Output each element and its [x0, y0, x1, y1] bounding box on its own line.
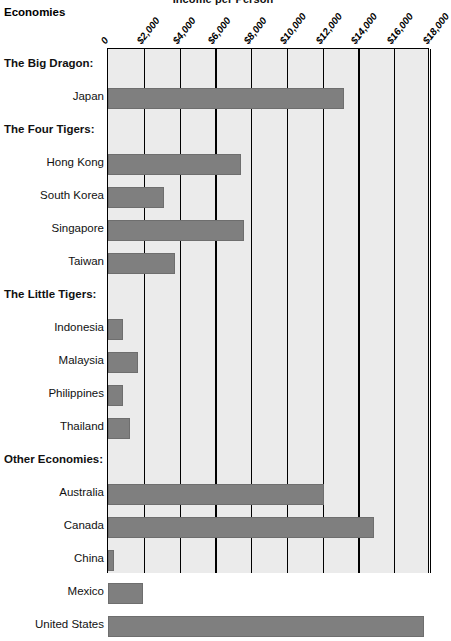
bar-hong-kong[interactable]: [108, 154, 241, 175]
row-label: South Korea: [0, 189, 108, 201]
row-label: Singapore: [0, 222, 108, 234]
row-label: Thailand: [0, 420, 108, 432]
x-axis-tick-5: $10,000: [277, 11, 308, 46]
bar-row: [108, 346, 428, 379]
bar-thailand[interactable]: [108, 418, 130, 439]
x-axis-tick-0: 0: [98, 35, 110, 46]
bar-row: [108, 214, 428, 247]
x-axis-tick-7: $14,000: [349, 11, 380, 46]
bar-row: [108, 313, 428, 346]
row-label: United States: [0, 618, 108, 630]
x-axis-tick-4: $8,000: [241, 15, 269, 46]
plot-area: [107, 48, 429, 573]
row-label: Hong Kong: [0, 156, 108, 168]
bar-malaysia[interactable]: [108, 352, 138, 373]
x-axis-tick-3: $6,000: [206, 15, 234, 46]
bar-japan[interactable]: [108, 88, 344, 109]
economies-column-header: Economies: [4, 6, 65, 18]
bar-indonesia[interactable]: [108, 319, 123, 340]
bar-row: [108, 577, 428, 610]
row-label: Malaysia: [0, 354, 108, 366]
bar-row: [108, 181, 428, 214]
x-axis-tick-2: $4,000: [170, 15, 198, 46]
bar-row: [108, 412, 428, 445]
row-label: Philippines: [0, 387, 108, 399]
bar-row: [108, 610, 428, 641]
bar-united-states[interactable]: [108, 616, 424, 637]
chart-title: Income per Person: [0, 0, 446, 5]
row-label: China: [0, 552, 108, 564]
row-label: Australia: [0, 486, 108, 498]
bar-row: [108, 478, 428, 511]
group-label: The Little Tigers:: [0, 288, 104, 300]
x-axis-tick-8: $16,000: [385, 11, 416, 46]
bar-row: [108, 148, 428, 181]
group-label: The Four Tigers:: [0, 123, 104, 135]
x-axis-tick-6: $12,000: [313, 11, 344, 46]
bar-row: [108, 82, 428, 115]
bar-australia[interactable]: [108, 484, 324, 505]
bar-taiwan[interactable]: [108, 253, 175, 274]
x-axis-tick-9: $18,000: [420, 11, 451, 46]
group-label: The Big Dragon:: [0, 57, 104, 69]
row-label: Japan: [0, 90, 108, 102]
bar-china[interactable]: [108, 550, 114, 571]
bar-philippines[interactable]: [108, 385, 123, 406]
row-label: Canada: [0, 519, 108, 531]
group-label: Other Economies:: [0, 453, 104, 465]
bar-row: [108, 544, 428, 577]
x-axis-tick-1: $2,000: [134, 15, 162, 46]
row-label: Taiwan: [0, 255, 108, 267]
row-label: Indonesia: [0, 321, 108, 333]
bar-south-korea[interactable]: [108, 187, 164, 208]
bar-row: [108, 247, 428, 280]
bar-row: [108, 379, 428, 412]
bar-singapore[interactable]: [108, 220, 244, 241]
bar-canada[interactable]: [108, 517, 374, 538]
gridline-18000: [430, 49, 431, 573]
row-label: Mexico: [0, 585, 108, 597]
bar-mexico[interactable]: [108, 583, 143, 604]
bar-row: [108, 511, 428, 544]
